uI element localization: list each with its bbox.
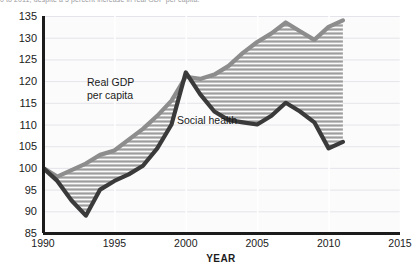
line-chart-canvas: 859095100105110115120125130135 199019952… [0, 0, 416, 271]
y-tick-label: 130 [19, 32, 37, 44]
y-tick-label: 90 [25, 205, 37, 217]
y-tick-label: 125 [19, 53, 37, 65]
x-tick-label: 1995 [103, 237, 127, 249]
y-tick-label: 135 [19, 10, 37, 22]
y-tick-label: 110 [19, 119, 37, 131]
annotation-real-gdp-line2: per capita [87, 89, 133, 101]
annotation-real-gdp-line1: Real GDP [87, 76, 134, 88]
x-tick-label: 2000 [174, 237, 198, 249]
annotation-social-health: Social health [177, 114, 237, 126]
x-tick-label: 2015 [388, 237, 412, 249]
y-tick-label: 115 [19, 97, 37, 109]
x-axis-tick-labels: 199019952000200520102015 [31, 237, 412, 249]
y-tick-label: 95 [25, 184, 37, 196]
x-tick-label: 2005 [246, 237, 270, 249]
y-tick-label: 105 [19, 140, 37, 152]
y-axis-tick-labels: 859095100105110115120125130135 [19, 10, 37, 239]
chart-figure: 0 to 2011, despite a 5 percent increase … [0, 0, 416, 271]
x-tick-label: 1990 [31, 237, 55, 249]
x-tick-label: 2010 [317, 237, 341, 249]
y-tick-label: 100 [19, 162, 37, 174]
x-axis-title: YEAR [206, 253, 236, 264]
y-tick-label: 120 [19, 75, 37, 87]
